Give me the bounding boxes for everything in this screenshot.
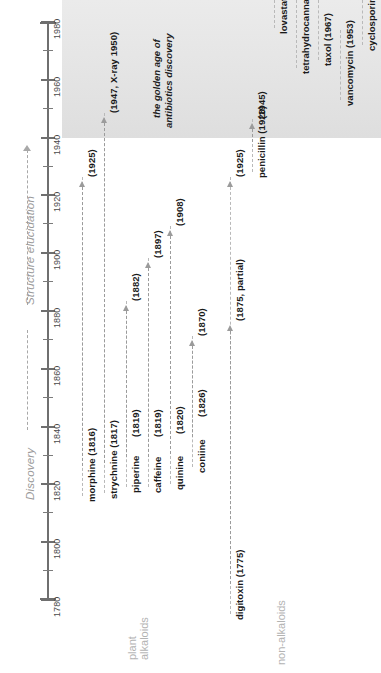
discovery-label-strychnine: strychnine (1817) <box>108 420 119 499</box>
structure-arrow-shaft-morphine <box>82 187 83 466</box>
discovery-label-digitoxin: digitoxin (1775) <box>234 550 245 620</box>
structure-arrow-shaft-coniine <box>192 346 193 437</box>
structure-arrow-shaft-digitoxin <box>230 331 231 584</box>
axis-tick-label-1780: 1780 <box>52 597 62 617</box>
axis-tick-1830 <box>43 455 53 456</box>
discovery-year-caffeine: (1819) <box>152 410 163 438</box>
axis-tick-1910 <box>43 223 53 224</box>
structure-label-piperine: (1882) <box>130 273 141 301</box>
discovery-label-piperine: piperine <box>130 456 141 493</box>
axis-tick-label-1860: 1860 <box>52 365 62 385</box>
structure-arrow-shaft-piperine <box>126 311 127 457</box>
group-label-line1: plant <box>126 636 138 660</box>
discovery-label-lovastatin: lovastatin (1978) <box>278 0 289 34</box>
axis-tick-label-1920: 1920 <box>52 192 62 212</box>
axis-tick-1970 <box>43 50 53 51</box>
structure-label-digitoxin: (1875, partial) <box>234 259 245 321</box>
structure-arrow-head-caffeine <box>145 262 151 268</box>
group-label-line2: alkaloids <box>138 617 150 660</box>
row-guide-lovastatin <box>274 0 275 28</box>
structure-label-quinine: (1908) <box>174 198 185 226</box>
discovery-label-quinine: quinine <box>174 456 185 490</box>
axis-tick-label-1800: 1800 <box>52 539 62 559</box>
discovery-caption-rule <box>27 330 28 430</box>
axis-tick-label-1840: 1840 <box>52 423 62 443</box>
group-non-alkaloids: non-alkaloids <box>275 600 287 665</box>
discovery-year-quinine: (1820) <box>174 407 185 435</box>
axis-tick-label-1900: 1900 <box>52 250 62 270</box>
structure-elucidation-caption: Structure elucidation <box>24 196 36 305</box>
structure-label-strychnine: (1947, X-ray 1950) <box>108 32 119 113</box>
discovery-year-coniine: (1826) <box>196 389 207 417</box>
structure-arrow-shaft-quinine <box>170 236 171 454</box>
row-guide-taxol <box>318 0 319 60</box>
axis-tick-label-1960: 1960 <box>52 76 62 96</box>
axis-tick-1790 <box>43 570 53 571</box>
axis-tick-1870 <box>43 339 53 340</box>
discovery-label-cyclosporine: cyclosporine (1972) <box>366 0 377 51</box>
axis-tick-label-1940: 1940 <box>52 134 62 154</box>
structure-arrow-head-quinine <box>167 230 173 236</box>
discovery-label-vancomycin: vancomycin (1953) <box>344 20 355 106</box>
axis-tick-label-1980: 1980 <box>52 19 62 39</box>
structure-arrow-shaft-penicillin <box>252 129 253 142</box>
golden-age-annotation-line1: the golden age of <box>151 39 162 118</box>
discovery-label-morphine: morphine (1816) <box>86 428 97 502</box>
structure-arrow-head-morphine <box>79 181 85 187</box>
row-guide-tetrahydrocannabinol <box>296 0 297 68</box>
structure-arrow-head-penicillin <box>249 123 255 129</box>
group-label-non-alkaloids: non-alkaloids <box>275 600 287 665</box>
structure-arrow-head-strychnine <box>101 117 107 123</box>
axis-tick-1850 <box>43 397 53 398</box>
structure-arrow-head-coniine <box>189 340 195 346</box>
timeline-figure: the golden age of antibiotics discovery … <box>0 0 381 673</box>
structure-arrow-head-piperine <box>123 305 129 311</box>
structure-label-morphine: (1925) <box>86 149 97 177</box>
structure-label-penicillin: (1945) <box>256 91 267 119</box>
golden-age-annotation-line2: antibiotics discovery <box>163 33 174 128</box>
axis-tick-label-1880: 1880 <box>52 308 62 328</box>
axis-tick-1890 <box>43 281 53 282</box>
discovery-year-piperine: (1819) <box>130 410 141 438</box>
structure-arrow-head-2-digitoxin <box>227 181 233 187</box>
axis-tick-1950 <box>43 108 53 109</box>
discovery-label-coniine: coniine <box>196 439 207 473</box>
discovery-label-caffeine: caffeine <box>152 457 163 493</box>
structure-arrow-shaft-caffeine <box>148 268 149 457</box>
structure-caption-arrow <box>23 145 31 151</box>
discovery-label-taxol: taxol (1967) <box>322 13 333 66</box>
axis-tick-1930 <box>43 166 53 167</box>
structure-arrow-shaft-strychnine <box>104 123 105 463</box>
structure-label-2-digitoxin: (1925) <box>234 149 245 177</box>
discovery-caption: Discovery <box>24 448 36 500</box>
structure-arrow-head-digitoxin <box>227 325 233 331</box>
group-plant-alkaloids: plant alkaloids <box>126 617 150 660</box>
structure-label-caffeine: (1897) <box>152 230 163 258</box>
row-guide-vancomycin <box>340 30 341 100</box>
structure-label-coniine: (1870) <box>196 308 207 336</box>
row-guide-cyclosporine <box>362 0 363 45</box>
axis-tick-label-1820: 1820 <box>52 481 62 501</box>
axis-tick-1810 <box>43 512 53 513</box>
discovery-label-tetrahydrocannabinol: tetrahydrocannabinol (1964) <box>300 0 311 74</box>
